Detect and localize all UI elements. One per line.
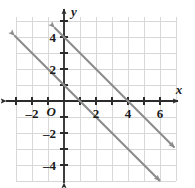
xtick-label-6: 6 bbox=[157, 106, 164, 121]
origin-label: O bbox=[47, 104, 57, 119]
ytick-label-neg2: –2 bbox=[42, 126, 56, 141]
x-axis-label: x bbox=[175, 82, 183, 97]
coordinate-plane-graph: –2 2 4 6 4 2 –2 –4 O x y bbox=[0, 0, 195, 188]
y-axis-label: y bbox=[69, 4, 77, 19]
xtick-label-neg2: –2 bbox=[25, 106, 39, 121]
graph-canvas: –2 2 4 6 4 2 –2 –4 O x y bbox=[0, 0, 195, 188]
plotted-lines bbox=[14, 27, 174, 181]
xtick-label-2: 2 bbox=[93, 106, 100, 121]
xtick-label-4: 4 bbox=[125, 106, 132, 121]
tick-marks bbox=[16, 21, 160, 165]
ytick-label-4: 4 bbox=[50, 30, 57, 45]
ytick-label-neg4: –4 bbox=[42, 158, 57, 173]
ytick-label-2: 2 bbox=[50, 62, 57, 77]
line-upper bbox=[54, 27, 174, 147]
